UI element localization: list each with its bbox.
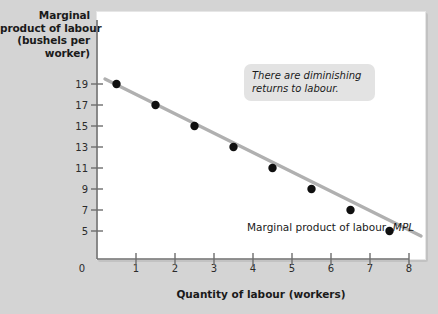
- callout-line-2: returns to labour.: [252, 82, 368, 95]
- callout-line-1: There are diminishing: [252, 69, 368, 82]
- diminishing-returns-callout: There are diminishing returns to labour.: [244, 64, 375, 101]
- data-point-6: [307, 185, 315, 193]
- data-point-1: [112, 80, 120, 88]
- data-point-2: [151, 101, 159, 109]
- curve-label-symbol: MPL: [393, 221, 414, 233]
- data-point-7: [346, 206, 354, 214]
- curve-label-text: Marginal product of labour,: [247, 221, 393, 233]
- curve-label: Marginal product of labour, MPL: [247, 221, 414, 233]
- chart-figure: Marginal product of labour (bushels per …: [0, 0, 438, 314]
- data-point-4: [229, 143, 237, 151]
- data-point-5: [268, 164, 276, 172]
- chart-canvas: [0, 0, 438, 314]
- mpl-data-points: [112, 80, 393, 235]
- data-point-3: [190, 122, 198, 130]
